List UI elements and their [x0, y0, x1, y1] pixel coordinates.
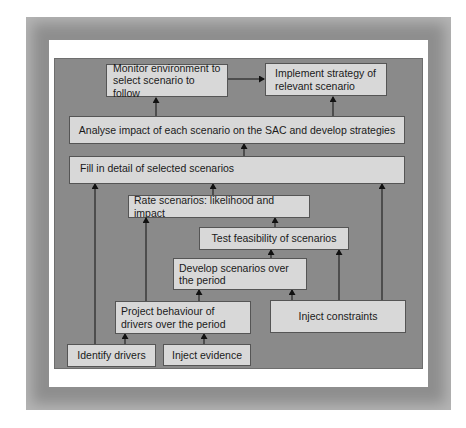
node-label: Inject evidence: [172, 349, 242, 362]
node-fill-in-detail: Fill in detail of selected scenarios: [69, 156, 405, 184]
node-label: Project behaviour of drivers over the pe…: [121, 305, 244, 330]
node-implement-strategy: Implement strategy of relevant scenario: [265, 63, 387, 96]
node-test-feasibility: Test feasibility of scenarios: [199, 227, 349, 250]
node-label: Implement strategy of relevant scenario: [275, 67, 380, 92]
node-label: Test feasibility of scenarios: [212, 232, 337, 245]
node-label: Inject constraints: [299, 310, 378, 323]
node-label: Analyse impact of each scenario on the S…: [79, 124, 395, 137]
node-label: Identify drivers: [77, 349, 145, 362]
node-develop-scenarios: Develop scenarios over the period: [173, 258, 307, 290]
node-inject-constraints: Inject constraints: [270, 300, 406, 333]
node-label: Monitor environment to select scenario t…: [113, 62, 221, 100]
node-identify-drivers: Identify drivers: [67, 344, 156, 367]
node-project-behaviour: Project behaviour of drivers over the pe…: [115, 301, 251, 334]
node-analyse-impact: Analyse impact of each scenario on the S…: [69, 116, 405, 144]
node-inject-evidence: Inject evidence: [163, 344, 251, 366]
node-rate-scenarios: Rate scenarios: likelihood and impact: [128, 195, 310, 218]
node-label: Develop scenarios over the period: [179, 262, 300, 287]
node-monitor-environment: Monitor environment to select scenario t…: [106, 64, 228, 97]
node-label: Rate scenarios: likelihood and impact: [134, 194, 303, 219]
node-label: Fill in detail of selected scenarios: [80, 162, 234, 175]
